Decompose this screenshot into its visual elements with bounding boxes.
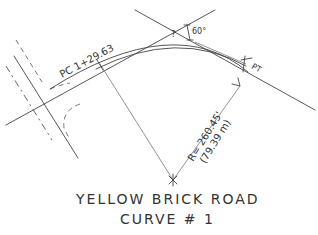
side-road	[6, 40, 80, 158]
pc-station-label: PC 1+29.63	[58, 42, 116, 80]
radius-line-pc	[100, 64, 173, 180]
forward-tangent-line	[135, 10, 315, 110]
back-tangent-line	[6, 10, 215, 125]
curve-arc	[96, 48, 246, 69]
curve-sketch: PC 1+29.63 PT ? 60° R= 260.45' (79.39 m)…	[0, 0, 318, 235]
chord-segment	[195, 42, 246, 64]
side-road-dashed-edge	[16, 40, 42, 82]
side-road-curb-return	[64, 104, 80, 140]
deflection-angle-label: 60°	[192, 27, 206, 36]
diagram-title: YELLOW BRICK ROAD	[75, 191, 260, 207]
pt-label: PT	[250, 62, 263, 75]
side-road-curb-upper	[50, 83, 70, 89]
delta-unknown-label: ?	[171, 29, 176, 39]
pt-tick-cross	[241, 58, 252, 60]
radius-arrow-icon	[232, 78, 240, 86]
diagram-subtitle: CURVE # 1	[120, 211, 215, 227]
